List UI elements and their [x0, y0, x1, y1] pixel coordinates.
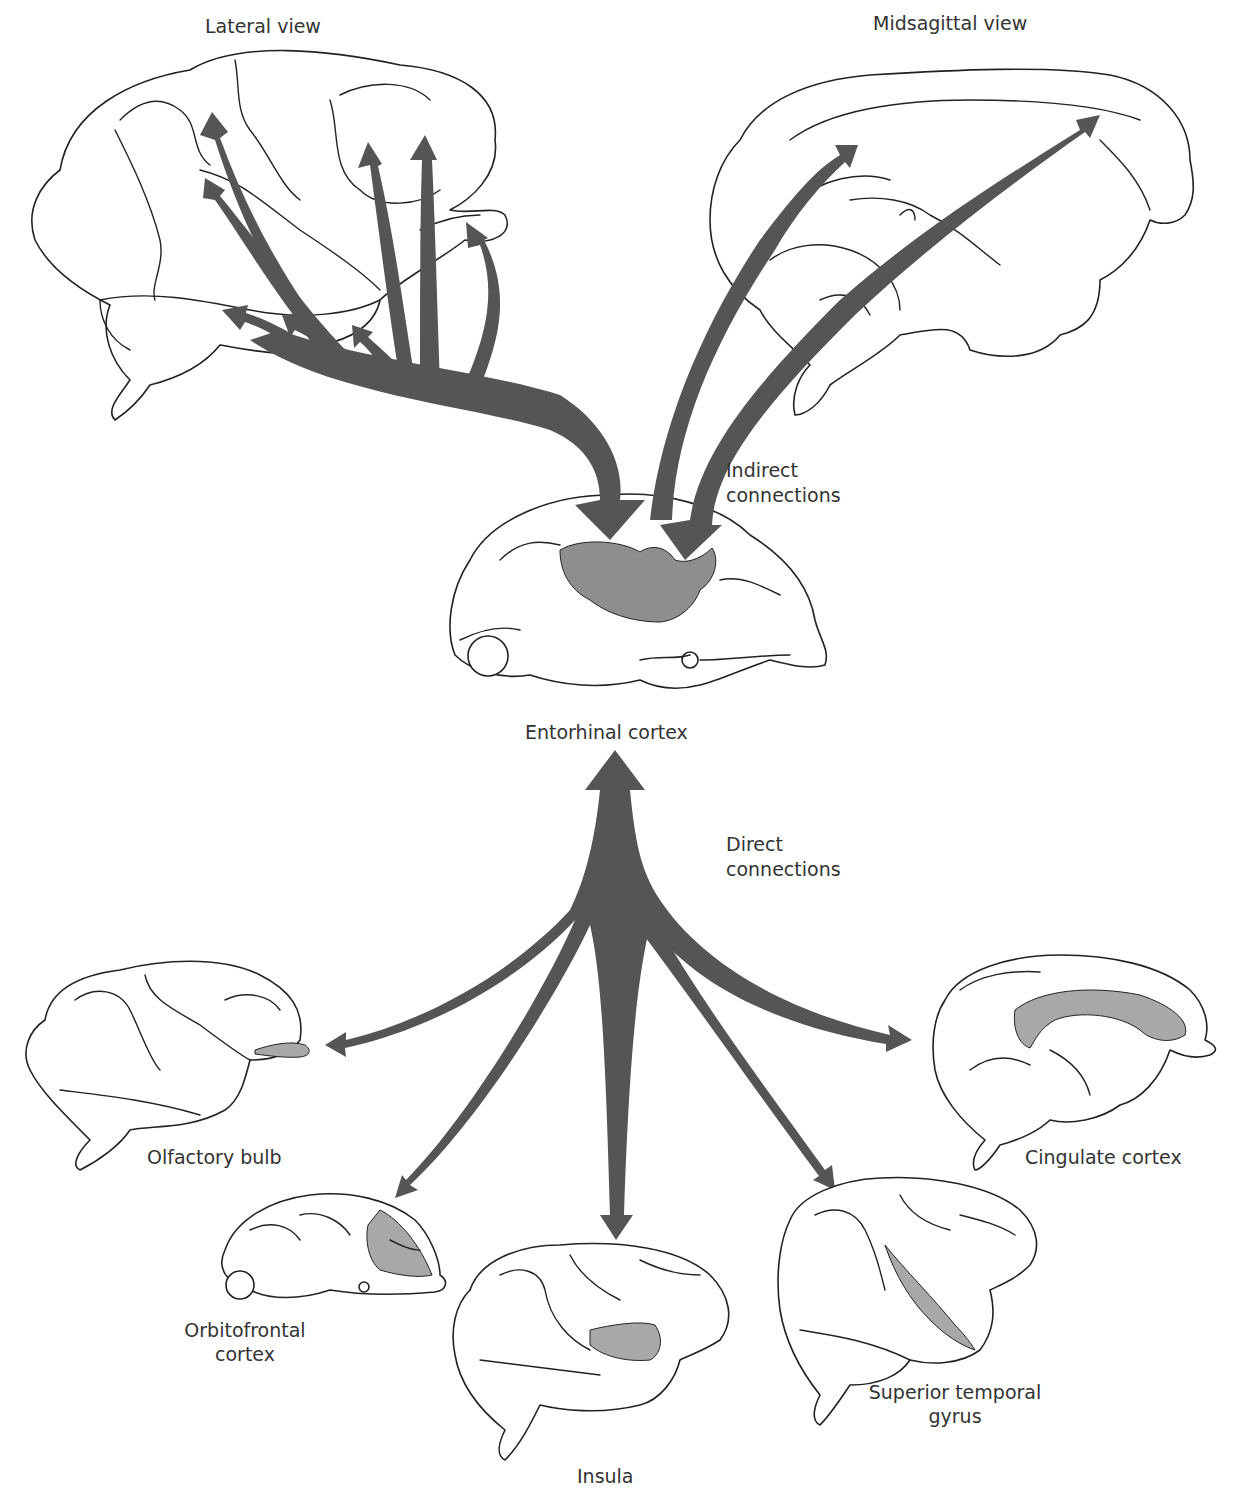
indirect-connections-label: Indirect connections [726, 458, 841, 508]
indirect-label-line2: connections [726, 483, 841, 508]
direct-connections-label: Direct connections [726, 832, 841, 882]
direct-connection-arrows [325, 750, 912, 1240]
direct-label-line2: connections [726, 857, 841, 882]
insula-brain [453, 1244, 729, 1460]
orbitofrontal-label-line2: cortex [170, 1342, 320, 1366]
orbitofrontal-brain [222, 1194, 446, 1299]
sup-temporal-label-line2: gyrus [855, 1404, 1055, 1428]
cingulate-brain [933, 955, 1215, 1170]
lateral-view-label: Lateral view [205, 14, 321, 38]
midsagittal-view-label: Midsagittal view [873, 11, 1027, 35]
insula-label: Insula [577, 1464, 634, 1488]
olfactory-brain [26, 961, 309, 1170]
olfactory-bulb-label: Olfactory bulb [147, 1145, 282, 1169]
entorhinal-cortex-label: Entorhinal cortex [525, 720, 688, 744]
superior-temporal-gyrus-label: Superior temporal gyrus [855, 1380, 1055, 1428]
cingulate-cortex-label: Cingulate cortex [1025, 1145, 1182, 1169]
direct-label-line1: Direct [726, 832, 841, 857]
diagram-canvas [0, 0, 1248, 1492]
orbitofrontal-cortex-label: Orbitofrontal cortex [170, 1318, 320, 1366]
entorhinal-brain [450, 494, 826, 688]
indirect-label-line1: Indirect [726, 458, 841, 483]
orbitofrontal-label-line1: Orbitofrontal [170, 1318, 320, 1342]
sup-temporal-label-line1: Superior temporal [855, 1380, 1055, 1404]
